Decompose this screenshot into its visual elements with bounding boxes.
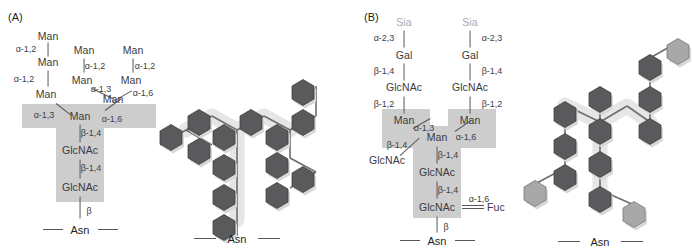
bond: [403, 64, 404, 81]
node-sia: Sia: [396, 16, 411, 28]
node-man: Man: [72, 74, 93, 86]
linkage-label: α-2,3: [482, 33, 503, 43]
node-glcnac: GlcNAc: [452, 81, 488, 93]
bond: [469, 97, 470, 114]
linkage-label: β-1,4: [374, 66, 395, 76]
bond: [47, 43, 48, 57]
asn-line: [400, 240, 420, 241]
linkage-label: β: [86, 206, 91, 216]
node-man: Man: [74, 44, 95, 56]
linkage-label: β-1,4: [387, 140, 408, 150]
asn-label: Asn: [428, 235, 447, 247]
node-glcnac: GlcNAc: [62, 144, 98, 156]
linkage-label: α-1,2: [135, 61, 156, 71]
linkage-label: α-1,6: [102, 114, 123, 124]
linkage-label: α-1,2: [14, 74, 35, 84]
bond: [436, 217, 437, 233]
symbol-hexagons: [524, 39, 691, 231]
linkage-label: α-2,3: [374, 33, 395, 43]
linkage-label: α-1,6: [133, 88, 154, 98]
node-sia: Sia: [462, 16, 477, 28]
bond: [469, 31, 470, 48]
linkage-label: β-1,4: [81, 128, 102, 138]
asn-line: [621, 241, 643, 242]
symbol-bonds: [160, 86, 316, 236]
asn-line: [558, 241, 580, 242]
panel-a-label: (A): [8, 11, 23, 23]
bond: [462, 208, 484, 209]
linkage-label: β-1,4: [438, 185, 459, 195]
node-fuc: Fuc: [487, 201, 505, 213]
node-glcnac: GlcNAc: [62, 181, 98, 193]
symbol-bonds: [535, 42, 678, 212]
bond: [79, 197, 80, 219]
node-gal: Gal: [396, 49, 413, 61]
bond: [47, 71, 48, 87]
linkage-label: β-1,2: [482, 99, 503, 109]
asn-label: Asn: [591, 236, 610, 248]
node-glcnac: GlcNAc: [419, 201, 455, 213]
linkage-label: α-1,2: [16, 44, 37, 54]
node-man: Man: [38, 30, 59, 42]
bond: [469, 64, 470, 81]
linkage-label: β-1,4: [81, 163, 102, 173]
symbol-core-highlight: [186, 116, 290, 220]
node-man: Man: [460, 114, 481, 126]
linkage-label: α-1,3: [91, 84, 112, 94]
bond: [403, 97, 404, 114]
node-man: Man: [394, 114, 415, 126]
node-man-core: Man: [70, 110, 91, 122]
bond: [462, 205, 484, 206]
asn-line: [258, 238, 280, 239]
linkage-label: α-1,3: [414, 123, 435, 133]
node-glcnac: GlcNAc: [419, 166, 455, 178]
glycan-structures-figure: (A) Man Man Man Man Man Man Man Man Man …: [0, 0, 692, 251]
symbol-core-highlight: [565, 105, 650, 200]
panel-b-label: (B): [364, 11, 379, 23]
linkage-label: α-1,6: [456, 132, 477, 142]
linkage-label: β-1,4: [482, 66, 503, 76]
linkage-label: β-1,2: [374, 99, 395, 109]
linkage-label: α-1,6: [469, 194, 490, 204]
node-glcnac-bisecting: GlcNAc: [369, 154, 405, 166]
node-man: Man: [123, 44, 144, 56]
node-gal: Gal: [462, 49, 479, 61]
asn-label: Asn: [228, 233, 247, 245]
node-man: Man: [36, 88, 57, 100]
linkage-label: α-1,3: [34, 110, 55, 120]
node-man: Man: [103, 93, 124, 105]
linkage-label: α-1,2: [85, 61, 106, 71]
bond: [403, 31, 404, 48]
node-man: Man: [38, 56, 59, 68]
asn-line: [455, 240, 475, 241]
linkage-label: β: [443, 222, 448, 232]
asn-label: Asn: [71, 224, 90, 236]
linkage-label: β-1,4: [438, 150, 459, 160]
asn-line: [43, 229, 63, 230]
bond: [132, 59, 133, 73]
asn-line: [194, 238, 216, 239]
node-man: Man: [121, 74, 142, 86]
symbol-hexagons: [160, 80, 316, 244]
node-glcnac: GlcNAc: [386, 81, 422, 93]
asn-line: [98, 229, 118, 230]
